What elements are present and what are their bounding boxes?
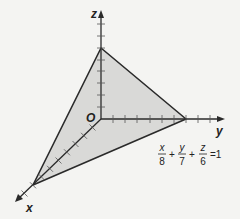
eq-num-x: x: [159, 142, 166, 153]
eq-den-6: 6: [200, 156, 206, 167]
eq-plus-1: +: [169, 149, 175, 160]
plane-equation: x 8 + y 7 + z 6 =1: [158, 142, 222, 167]
y-arrow-icon: [217, 116, 225, 122]
eq-num-y: y: [179, 142, 186, 153]
y-axis-label: y: [215, 124, 224, 138]
eq-plus-2: +: [189, 149, 195, 160]
coordinate-diagram: z y x O x 8 + y 7 + z 6 =1: [0, 0, 240, 219]
eq-den-8: 8: [159, 156, 165, 167]
eq-rhs: =1: [210, 149, 222, 160]
x-axis-label: x: [25, 201, 34, 215]
eq-num-z: z: [200, 142, 206, 153]
eq-den-7: 7: [179, 156, 185, 167]
z-axis-label: z: [90, 7, 97, 21]
origin-label: O: [86, 111, 96, 125]
z-arrow-icon: [98, 10, 104, 18]
